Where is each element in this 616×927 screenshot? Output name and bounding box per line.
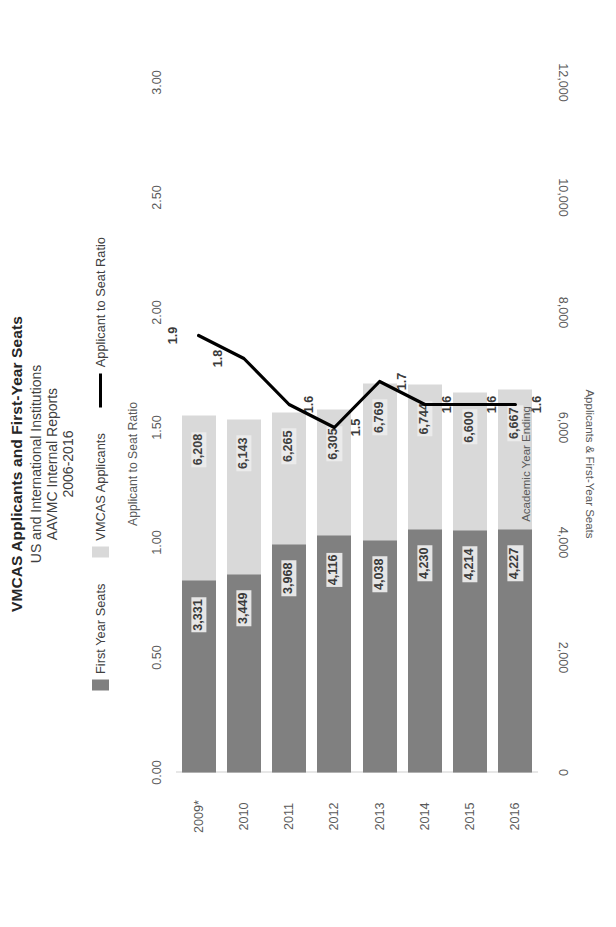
ratio-point-label: 1.9 (166, 326, 180, 344)
ratio-point-label: 1.6 (440, 395, 454, 413)
chart-figure: VMCAS Applicants and First-Year Seats US… (0, 0, 616, 927)
secondary-axis-ticks: 0.000.501.001.502.002.503.00 (150, 0, 170, 927)
rotated-figure-canvas: VMCAS Applicants and First-Year Seats US… (0, 0, 616, 927)
legend-swatch (92, 546, 109, 557)
bar-label-first-year-seats: 3,449 (236, 590, 251, 626)
legend-item[interactable]: Applicant to Seat Ratio (93, 237, 108, 407)
legend-label: Applicant to Seat Ratio (93, 237, 108, 367)
secondary-tick-label: 2.00 (150, 300, 164, 325)
secondary-tick-label: 0.50 (150, 645, 164, 670)
legend-line-marker (99, 373, 102, 407)
bar-label-vmcas-applicants: 6,208 (191, 431, 206, 467)
primary-tick-label: 2,000 (556, 641, 570, 673)
bar-label-vmcas-applicants: 6,600 (463, 409, 478, 445)
bar-label-first-year-seats: 3,968 (282, 560, 297, 596)
legend-item[interactable]: VMCAS Applicants (92, 433, 109, 557)
bar-group (363, 0, 397, 927)
primary-tick-label: 10,000 (556, 178, 570, 217)
secondary-tick-label: 0.00 (150, 760, 164, 785)
legend-item[interactable]: First Year Seats (92, 583, 109, 690)
category-label: 2012 (327, 802, 341, 830)
bar-group (317, 0, 351, 927)
plot-area: 3,3316,2083,4496,1433,9686,2654,1166,305… (176, 0, 538, 927)
bar-group (408, 0, 442, 927)
ratio-point-label: 1.6 (485, 395, 499, 413)
category-label: 2014 (418, 802, 432, 830)
bar-label-vmcas-applicants: 6,143 (236, 435, 251, 471)
category-label: 2011 (282, 802, 296, 829)
bar-label-first-year-seats: 4,116 (327, 552, 342, 587)
secondary-axis-title: Applicant to Seat Ratio (126, 0, 140, 927)
primary-tick-label: 6,000 (556, 411, 570, 443)
bar-label-vmcas-applicants: 6,305 (327, 426, 342, 462)
plot-inner: 3,3316,2083,4496,1433,9686,2654,1166,305… (176, 0, 538, 927)
secondary-tick-label: 3.00 (150, 70, 164, 95)
chart-subtitle-1: US and International Institutions (28, 0, 44, 927)
category-label: 2013 (373, 802, 387, 830)
bar-label-first-year-seats: 4,038 (372, 556, 387, 592)
chart-subtitle-2: AAVMC Internal Reports (44, 0, 60, 927)
bar-label-vmcas-applicants: 6,769 (372, 399, 387, 435)
bar-label-first-year-seats: 4,230 (417, 545, 432, 581)
secondary-tick-label: 2.50 (150, 185, 164, 210)
category-axis-title: Academic Year Ending (520, 0, 532, 927)
chart-subtitle-3: 2006-2016 (60, 0, 76, 927)
ratio-point-label: 1.8 (211, 349, 225, 367)
category-label: 2010 (237, 802, 251, 830)
bar-label-first-year-seats: 4,214 (463, 546, 478, 582)
secondary-tick-label: 1.50 (150, 415, 164, 440)
chart-legend: First Year SeatsVMCAS ApplicantsApplican… (92, 0, 109, 927)
legend-label: First Year Seats (93, 583, 108, 673)
chart-title: VMCAS Applicants and First-Year Seats (8, 0, 26, 927)
bar-label-first-year-seats: 3,331 (191, 597, 206, 633)
bar-label-vmcas-applicants: 6,744 (417, 400, 432, 436)
ratio-point-label: 1.6 (302, 395, 316, 413)
category-label: 2015 (463, 802, 477, 830)
chart-title-block: VMCAS Applicants and First-Year Seats US… (8, 0, 76, 927)
secondary-tick-label: 1.00 (150, 530, 164, 555)
ratio-point-label: 1.5 (349, 418, 363, 436)
category-label: 2009* (192, 800, 206, 833)
primary-tick-label: 8,000 (556, 296, 570, 328)
primary-tick-label: 4,000 (556, 526, 570, 558)
primary-tick-label: 12,000 (556, 63, 570, 102)
ratio-point-label: 1.7 (395, 372, 409, 390)
primary-tick-label: 0 (556, 768, 570, 775)
bar-group (453, 0, 487, 927)
primary-axis-title: Applicants & First-Year Seats (584, 0, 596, 927)
legend-label: VMCAS Applicants (93, 433, 108, 540)
bar-label-vmcas-applicants: 6,265 (282, 428, 297, 464)
ratio-point-label: 1.6 (530, 395, 544, 413)
primary-axis-ticks: 02,0004,0006,0008,00010,00012,000 (556, 0, 576, 927)
legend-swatch (92, 679, 109, 690)
